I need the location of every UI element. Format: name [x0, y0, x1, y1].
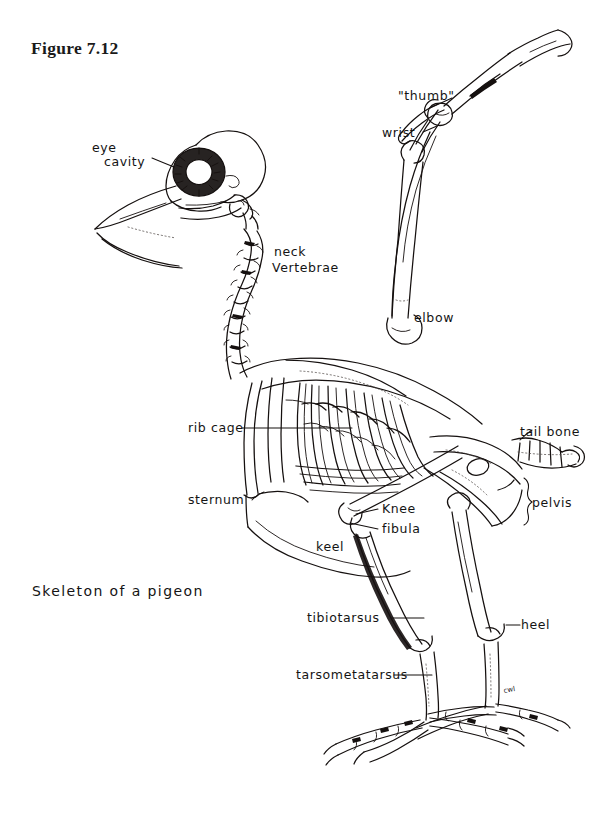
label-heel: heel	[521, 617, 550, 632]
label-elbow: elbow	[414, 310, 454, 325]
label-neck-line2: Vertebrae	[272, 260, 339, 275]
cervical-vertebrae	[224, 229, 263, 379]
pigeon-skeleton-illustration	[0, 0, 612, 814]
label-sternum-text: sternum	[188, 492, 244, 507]
label-eye-cavity-line2: cavity	[104, 154, 145, 169]
label-pelvis-text: pelvis	[532, 495, 572, 510]
label-tail-bone-text: tail bone	[520, 424, 580, 439]
label-wrist: wrist	[382, 125, 415, 140]
label-elbow-text: elbow	[414, 310, 454, 325]
label-wrist-text: wrist	[382, 125, 415, 140]
pelvis-tail-group	[424, 436, 585, 526]
label-neck-vertebrae-2: Vertebrae	[272, 260, 339, 275]
label-keel: keel	[316, 539, 344, 554]
artist-signature-text: cwl	[503, 685, 516, 695]
label-knee-text: Knee	[382, 501, 416, 516]
label-eye-cavity-2: cavity	[104, 154, 145, 169]
label-thumb-text: "thumb"	[398, 88, 455, 103]
figure-caption-text: Skeleton of a pigeon	[32, 583, 204, 599]
figure-page: Figure 7.12	[0, 0, 612, 814]
label-thumb: "thumb"	[398, 88, 455, 103]
label-tarsometatarsus-text: tarsometatarsus	[296, 667, 408, 682]
wing-group	[387, 30, 572, 344]
brace-pelvis	[524, 478, 532, 525]
label-rib-cage: rib cage	[188, 420, 243, 435]
label-heel-text: heel	[521, 617, 550, 632]
label-fibula-text: fibula	[382, 521, 420, 536]
label-pelvis: pelvis	[532, 495, 572, 510]
figure-caption: Skeleton of a pigeon	[32, 583, 204, 600]
label-knee: Knee	[382, 501, 416, 516]
label-neck-vertebrae: neck	[274, 244, 306, 259]
label-eye-cavity-line1: eye	[92, 140, 117, 155]
feet-group	[324, 704, 570, 765]
label-tail-bone: tail bone	[520, 424, 580, 439]
leader-eye-cavity	[152, 158, 174, 167]
leader-fibula	[350, 523, 378, 529]
label-neck-line1: neck	[274, 244, 306, 259]
label-fibula: fibula	[382, 521, 420, 536]
label-eye-cavity: eye	[92, 140, 117, 155]
skull-group	[95, 131, 266, 268]
label-tibiotarsus: tibiotarsus	[307, 610, 380, 625]
label-tarsometatarsus: tarsometatarsus	[296, 667, 408, 682]
label-keel-text: keel	[316, 539, 344, 554]
label-rib-cage-text: rib cage	[188, 420, 243, 435]
label-tibiotarsus-text: tibiotarsus	[307, 610, 380, 625]
label-sternum: sternum	[188, 492, 244, 507]
